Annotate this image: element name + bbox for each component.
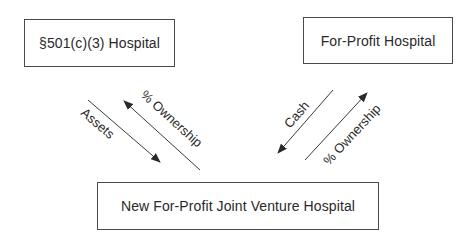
cash-arrow: Cash [278,90,333,153]
assets-label: Assets [78,105,118,142]
nonprofit-hospital-label: §501(c)(3) Hospital [39,35,160,51]
ownership-to-nonprofit-label: % Ownership [138,87,205,150]
nonprofit-hospital-box: §501(c)(3) Hospital [24,19,175,67]
forprofit-hospital-label: For-Profit Hospital [321,33,436,49]
forprofit-hospital-box: For-Profit Hospital [303,17,453,64]
ownership-to-nonprofit-arrow: % Ownership [124,87,205,170]
assets-arrow: Assets [78,100,160,162]
cash-label: Cash [281,98,312,131]
ownership-to-forprofit-label: % Ownership [320,101,384,168]
joint-venture-hospital-label: New For-Profit Joint Venture Hospital [121,198,355,214]
ownership-to-forprofit-arrow: % Ownership [305,93,384,168]
joint-venture-hospital-box: New For-Profit Joint Venture Hospital [97,182,379,230]
